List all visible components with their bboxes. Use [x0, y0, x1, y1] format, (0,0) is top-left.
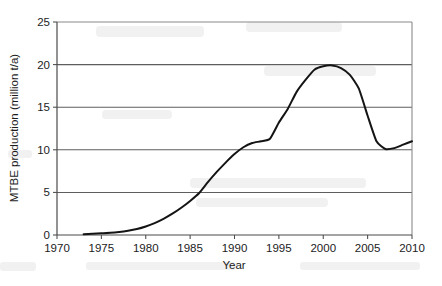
y-tick-label-10: 10 — [37, 144, 50, 156]
x-tick-label-2000: 2000 — [310, 242, 336, 254]
y-axis-title: MTBE production (million t/a) — [8, 54, 20, 202]
y-tick-label-0: 0 — [44, 229, 50, 241]
x-tick-label-1985: 1985 — [177, 242, 203, 254]
y-tick-label-5: 5 — [44, 186, 50, 198]
x-axis-tick-labels: 197019751980198519901995200020052010 — [44, 242, 425, 254]
mtbe-production-line-chart: 0510152025 19701975198019851990199520002… — [0, 0, 442, 286]
y-tick-label-15: 15 — [37, 101, 50, 113]
y-tick-label-25: 25 — [37, 16, 50, 28]
x-tick-label-1975: 1975 — [89, 242, 115, 254]
x-tick-label-2010: 2010 — [399, 242, 425, 254]
x-tick-label-1995: 1995 — [266, 242, 292, 254]
x-axis-title: Year — [222, 259, 245, 271]
x-tick-label-1970: 1970 — [44, 242, 70, 254]
chart-container: 0510152025 19701975198019851990199520002… — [0, 0, 442, 286]
y-tick-label-20: 20 — [37, 59, 50, 71]
x-tick-label-2005: 2005 — [355, 242, 381, 254]
x-tick-label-1980: 1980 — [133, 242, 159, 254]
x-tick-label-1990: 1990 — [222, 242, 248, 254]
